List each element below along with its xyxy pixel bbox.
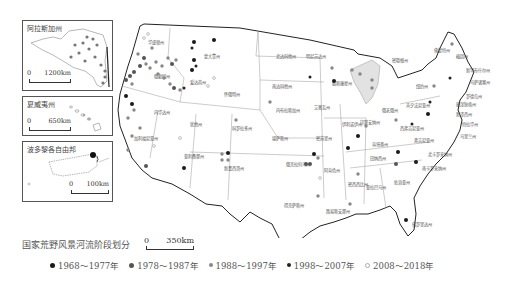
river-site-marker [144, 62, 147, 65]
river-site-marker [432, 84, 435, 87]
state-label: 亚利桑那州 [184, 153, 204, 160]
state-label: 蒙大拿州 [204, 53, 220, 60]
state-label: 新罕布什尔州 [466, 67, 490, 74]
state-label: 马萨诸塞州 [470, 79, 490, 86]
river-site-marker [234, 118, 237, 121]
state-label: 堪萨斯州 [272, 135, 288, 142]
state-label: 伊利诺伊州 [342, 121, 362, 128]
river-site-marker [124, 94, 128, 98]
river-site-marker [136, 52, 139, 55]
state-label: 印第安纳州 [360, 119, 380, 126]
state-label: 田纳西州 [370, 155, 386, 162]
river-site-marker [162, 76, 165, 79]
river-site-marker [190, 68, 194, 72]
state-label: 科罗拉多州 [232, 125, 252, 132]
river-site-marker [213, 77, 216, 80]
river-site-marker [450, 42, 453, 45]
river-site-marker [207, 85, 210, 88]
river-site-marker [126, 116, 129, 119]
main-scale: 0 350km [144, 236, 194, 250]
state-label: 阿肯色州 [324, 167, 340, 174]
river-site-marker [192, 40, 196, 44]
river-site-marker [226, 158, 229, 161]
map-title: 国家荒野风景河流阶段划分 [22, 238, 130, 251]
state-label: 纽约州 [416, 83, 428, 90]
river-site-marker [370, 78, 373, 81]
river-site-marker [142, 56, 146, 60]
legend-item-1968-1977: 1968～1977年 [50, 259, 119, 271]
river-site-marker [144, 164, 148, 168]
river-site-marker [195, 65, 198, 68]
river-site-marker [172, 86, 176, 90]
hawaii-scale: 0 650km [27, 117, 71, 131]
river-site-marker [370, 86, 373, 89]
state-label: 南卡罗来纳州 [422, 165, 446, 172]
river-site-marker [156, 72, 159, 75]
river-site-marker [394, 162, 398, 166]
river-site-marker [411, 123, 414, 126]
river-site-marker [316, 194, 319, 197]
state-label: 特拉华州 [462, 121, 478, 128]
river-site-marker [268, 100, 271, 103]
river-site-marker [330, 66, 333, 69]
river-site-marker [153, 145, 156, 148]
river-site-marker [143, 37, 146, 40]
river-site-marker [168, 82, 171, 85]
state-label: 明尼苏达州 [306, 53, 326, 60]
river-site-marker [332, 79, 336, 83]
state-label: 西弗吉尼亚州 [400, 125, 424, 132]
river-site-marker [183, 87, 186, 90]
state-label: 新泽西州 [456, 111, 472, 118]
state-label: 得克萨斯州 [284, 202, 304, 209]
river-site-marker [356, 172, 359, 175]
river-site-marker [396, 150, 400, 154]
puerto-rico-inset: 波多黎各自由邦 0 100km [22, 141, 113, 202]
river-site-marker [178, 88, 181, 91]
river-site-marker [174, 58, 177, 61]
river-site-marker [220, 158, 223, 161]
state-label: 密歇根州 [392, 57, 408, 64]
river-site-marker [350, 68, 353, 71]
state-label: 路易斯安那州 [326, 208, 350, 215]
state-label: 密西西比州 [348, 181, 368, 188]
legend-dot-icon [50, 263, 55, 268]
river-site-marker [308, 162, 312, 166]
legend-item-2008-2018: 2008～2018年 [365, 259, 434, 271]
river-site-marker [358, 72, 361, 75]
river-site-marker [182, 166, 186, 170]
legend-item-1998-2007: 1998～2007年 [287, 259, 355, 271]
legend-dot-icon [287, 263, 291, 267]
state-label: 马里兰州 [460, 133, 476, 140]
legend-dot-icon [129, 263, 134, 268]
legend-dot-icon [209, 263, 213, 267]
river-site-marker [212, 38, 216, 42]
state-label: 北卡罗来纳州 [428, 151, 452, 158]
state-label: 怀俄明州 [224, 91, 240, 98]
river-site-marker [404, 218, 408, 222]
river-site-marker [147, 33, 150, 36]
state-label: 密苏里州 [316, 135, 332, 142]
state-label: 宾夕法尼亚州 [406, 102, 430, 109]
state-label: 内布拉斯加州 [276, 107, 300, 114]
alaska-inset: 阿拉斯加州 0 1200km [22, 20, 113, 91]
river-site-marker [160, 64, 163, 67]
river-site-marker [170, 62, 174, 66]
state-label: 弗吉尼亚州 [414, 137, 434, 144]
river-site-marker [179, 137, 182, 140]
state-label: 康涅狄格州 [456, 101, 476, 108]
river-site-marker [226, 151, 230, 155]
river-site-marker [192, 58, 196, 62]
state-label: 犹他州 [190, 121, 202, 128]
legend-dot-icon [365, 263, 370, 268]
river-site-marker [191, 47, 194, 50]
river-site-marker [364, 124, 367, 127]
hawaii-inset: 夏威夷州 0 650km [22, 96, 113, 136]
river-site-marker [166, 56, 169, 59]
river-site-marker [130, 82, 133, 85]
state-label: 佛罗里达州 [412, 221, 432, 228]
state-label: 罗德岛州 [466, 93, 482, 100]
river-site-marker [348, 202, 351, 205]
state-label: 爱达荷州 [190, 79, 206, 86]
main-us-map: 华盛顿州蒙大拿州北达科他州明尼苏达州密歇根州缅因州佛蒙特州新罕布什尔州马萨诸塞州… [110, 18, 513, 238]
state-label: 艾奥瓦州 [314, 104, 330, 111]
